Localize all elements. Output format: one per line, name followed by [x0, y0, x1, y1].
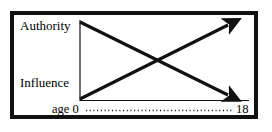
- x-axis-start-label: age 0: [52, 103, 79, 116]
- series-label-authority: Authority: [20, 19, 71, 32]
- series-line-influence: [80, 25, 228, 99]
- x-axis-end-label: 18: [236, 103, 249, 116]
- series-label-influence: Influence: [20, 76, 69, 89]
- figure-container: Authority Influence age 0 18: [0, 0, 272, 132]
- series-line-authority: [80, 22, 228, 95]
